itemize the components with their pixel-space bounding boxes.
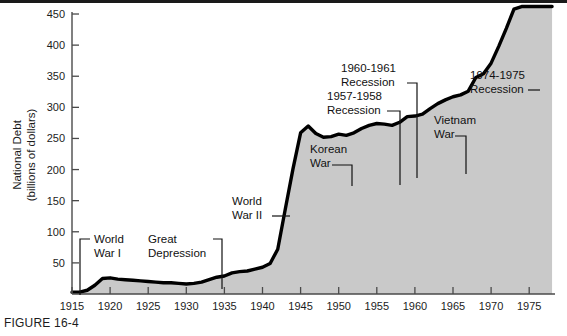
y-axis-ticks bbox=[72, 14, 79, 263]
x-tick-label: 1965 bbox=[441, 300, 465, 312]
figure-container: 50100150200250300350400450 1915192019251… bbox=[0, 0, 567, 336]
y-axis-title-line2: (billions of dollars) bbox=[25, 108, 37, 201]
annotation-label-line1: World bbox=[232, 195, 262, 207]
x-tick-label: 1945 bbox=[288, 300, 312, 312]
y-tick-label: 400 bbox=[47, 39, 65, 51]
annotation-label-line2: War II bbox=[232, 209, 262, 221]
annotation-label-line1: 1974-1975 bbox=[470, 69, 525, 81]
y-tick-label: 450 bbox=[47, 8, 65, 20]
x-tick-label: 1950 bbox=[326, 300, 350, 312]
x-axis-tick-labels: 1915192019251930193519401945195019551960… bbox=[60, 300, 542, 312]
annotation-label-line2: Recession bbox=[341, 76, 395, 88]
figure-caption: FIGURE 16-4 bbox=[4, 316, 79, 330]
annotation-label-line2: War bbox=[310, 157, 331, 169]
x-tick-label: 1915 bbox=[60, 300, 84, 312]
annotation-label-line1: World bbox=[94, 233, 124, 245]
x-tick-label: 1970 bbox=[479, 300, 503, 312]
y-axis-title: National Debt (billions of dollars) bbox=[11, 108, 37, 201]
x-tick-label: 1935 bbox=[212, 300, 236, 312]
y-tick-label: 50 bbox=[53, 257, 65, 269]
y-tick-label: 150 bbox=[47, 195, 65, 207]
annotation-label-line2: Recession bbox=[327, 104, 381, 116]
x-tick-label: 1925 bbox=[136, 300, 160, 312]
y-tick-label: 350 bbox=[47, 70, 65, 82]
annotation-world-war-ii: WorldWar II bbox=[232, 195, 290, 221]
y-axis-tick-labels: 50100150200250300350400450 bbox=[47, 8, 65, 269]
x-tick-label: 1960 bbox=[403, 300, 427, 312]
x-tick-label: 1955 bbox=[365, 300, 389, 312]
national-debt-area-chart: 50100150200250300350400450 1915192019251… bbox=[0, 0, 567, 315]
annotation-label-line2: War I bbox=[94, 247, 121, 259]
y-tick-label: 250 bbox=[47, 132, 65, 144]
annotation-leader-line bbox=[80, 239, 90, 295]
y-tick-label: 200 bbox=[47, 164, 65, 176]
annotation-label-line1: Vietnam bbox=[434, 114, 476, 126]
annotation-label-line2: War bbox=[434, 128, 455, 140]
x-tick-label: 1975 bbox=[517, 300, 541, 312]
annotation-label-line2: Depression bbox=[148, 247, 206, 259]
y-tick-label: 300 bbox=[47, 101, 65, 113]
annotation-label-line1: 1960-1961 bbox=[341, 62, 396, 74]
annotation-label-line1: 1957-1958 bbox=[327, 90, 382, 102]
annotation-label-line1: Korean bbox=[310, 143, 347, 155]
annotation-label-line1: Great bbox=[148, 233, 178, 245]
y-tick-label: 100 bbox=[47, 226, 65, 238]
x-tick-label: 1940 bbox=[250, 300, 274, 312]
annotation-label-line2: Recession bbox=[470, 83, 524, 95]
x-tick-label: 1930 bbox=[174, 300, 198, 312]
y-axis-title-line1: National Debt bbox=[11, 119, 23, 189]
x-tick-label: 1920 bbox=[98, 300, 122, 312]
